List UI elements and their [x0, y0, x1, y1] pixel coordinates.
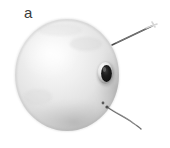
- sphere-mottle-2: [24, 89, 52, 105]
- sphere-mottle-1: [70, 37, 102, 51]
- figure-panel: a: [0, 0, 170, 148]
- panel-label: a: [24, 5, 32, 20]
- surface-speck: [102, 102, 105, 105]
- sphere-mottle-3: [38, 24, 82, 36]
- bore-hole: [97, 62, 115, 86]
- bore-hole-cavity: [101, 65, 112, 82]
- lower-wire-anchor: [105, 105, 108, 108]
- specimen-photograph: [0, 0, 170, 148]
- bore-hole-inner-gloss: [103, 67, 106, 72]
